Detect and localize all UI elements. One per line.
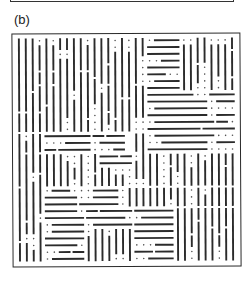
dimer-lattice-pattern [12, 33, 239, 265]
lattice-pattern-box [11, 32, 241, 267]
panel-label: (b) [14, 12, 30, 27]
previous-panel-border [10, 0, 234, 2]
